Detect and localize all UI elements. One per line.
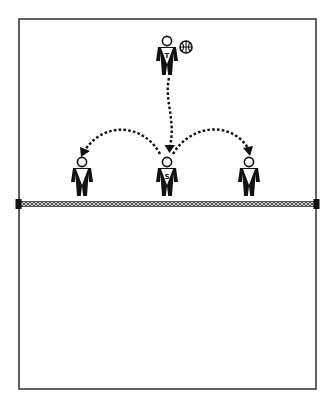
pass-setter-to-left — [85, 130, 160, 154]
volleyball-drill-diagram: T S — [0, 0, 334, 408]
player-right — [238, 157, 260, 196]
basketball-icon — [180, 41, 192, 53]
player-tosser: T — [156, 36, 178, 75]
player-left — [71, 157, 93, 196]
pass-tosser-to-setter — [168, 78, 172, 146]
player-setter: S — [156, 157, 178, 196]
pass-setter-to-right — [173, 129, 248, 154]
pass-arrows — [80, 78, 253, 157]
arrowhead-icon — [80, 147, 90, 157]
player-label: S — [164, 173, 169, 181]
player-label: T — [165, 52, 170, 60]
net-post-left — [16, 199, 22, 209]
net — [16, 199, 320, 209]
arrowhead-icon — [243, 146, 253, 156]
net-post-right — [314, 199, 320, 209]
